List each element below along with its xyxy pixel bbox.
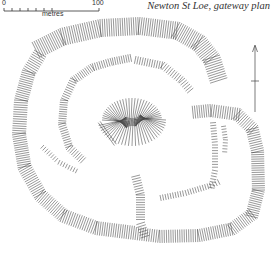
- hachure-stroke: [88, 219, 93, 232]
- hachure-stroke: [70, 148, 75, 154]
- hachure-stroke: [109, 19, 110, 37]
- hachure-stroke: [60, 127, 68, 129]
- hachure-stroke: [194, 40, 208, 51]
- hachure-stroke: [115, 224, 117, 238]
- north-arrow-icon: [251, 45, 259, 112]
- hachure-stroke: [153, 229, 155, 242]
- hachure-stroke: [119, 224, 121, 238]
- hachure-stroke: [158, 20, 160, 38]
- hachure-stroke: [222, 132, 227, 133]
- hachure-stroke: [151, 60, 153, 68]
- hachure-stroke: [210, 123, 216, 124]
- hachure-stroke: [62, 136, 70, 138]
- hachure-stroke: [107, 19, 108, 37]
- hachure-stroke: [13, 139, 27, 141]
- hachure-stroke: [192, 106, 193, 119]
- hachure-stroke: [104, 19, 105, 37]
- hachure-stroke: [101, 61, 103, 69]
- hachure-stroke: [14, 100, 28, 101]
- hachure-stroke: [60, 105, 68, 106]
- hachure-stroke: [87, 22, 91, 40]
- hachure-stroke: [93, 21, 97, 39]
- hachure-stroke: [16, 155, 30, 157]
- hachure-stroke: [210, 78, 227, 84]
- hachure-stroke: [207, 66, 224, 71]
- hachure-stroke: [118, 18, 119, 36]
- hachure-stroke: [175, 192, 176, 198]
- hachure-stroke: [15, 152, 29, 154]
- hachure-stroke: [208, 227, 211, 240]
- hachure-stroke: [71, 149, 77, 155]
- hachure-stroke: [137, 57, 139, 65]
- hachure-stroke: [199, 105, 200, 118]
- hachure-stroke: [149, 59, 151, 67]
- hachure-stroke: [207, 184, 209, 190]
- hachure-stroke: [84, 23, 88, 41]
- hachure-stroke: [84, 218, 89, 231]
- hachure-stroke: [65, 143, 73, 146]
- hachure-stroke: [133, 183, 142, 185]
- hachure-stroke: [200, 186, 202, 192]
- hachure-stroke: [71, 26, 75, 44]
- hachure-stroke: [200, 229, 203, 242]
- hachure-stroke: [67, 211, 72, 224]
- hachure-stroke: [89, 22, 93, 40]
- scale-bar: [4, 8, 99, 11]
- hachure-stroke: [227, 107, 229, 120]
- hachure-stroke: [219, 225, 222, 238]
- hachure-stroke: [98, 123, 114, 146]
- hachure-stroke: [91, 220, 96, 233]
- hachure-stroke: [197, 105, 198, 118]
- hachure-stroke: [108, 223, 110, 237]
- hachure-stroke: [202, 185, 204, 191]
- interior-ditch-east: [160, 179, 220, 201]
- hachure-stroke: [211, 173, 217, 174]
- hachure-stroke: [59, 116, 67, 117]
- hachure-stroke: [69, 212, 74, 225]
- hachure-stroke: [41, 145, 44, 149]
- hachure-stroke: [156, 230, 158, 243]
- hachure-stroke: [206, 104, 207, 117]
- hachure-stroke: [188, 189, 190, 195]
- hachure-stroke: [151, 229, 153, 242]
- hachure-stroke: [156, 61, 158, 69]
- hachure-stroke: [114, 57, 116, 65]
- hachure-stroke: [16, 157, 30, 159]
- hachure-stroke: [43, 147, 46, 151]
- hachure-stroke: [181, 27, 190, 43]
- hachure-stroke: [116, 18, 117, 36]
- hachure-stroke: [68, 165, 70, 170]
- hachure-stroke: [205, 184, 207, 190]
- hachure-stroke: [190, 189, 192, 195]
- hachure-stroke: [195, 41, 209, 52]
- hachure-stroke: [62, 134, 70, 137]
- hachure-stroke: [137, 227, 139, 240]
- hachure-stroke: [75, 169, 77, 173]
- hachure-stroke: [124, 18, 125, 36]
- hachure-stroke: [63, 93, 70, 96]
- hachure-stroke: [222, 106, 224, 119]
- hachure-stroke: [113, 18, 114, 36]
- hachure-stroke: [78, 215, 83, 228]
- hachure-stroke: [69, 26, 73, 44]
- hachure-stroke: [113, 223, 115, 237]
- hachure-stroke: [250, 143, 263, 146]
- eastern-inner-bank: [209, 123, 218, 189]
- hachure-stroke: [222, 224, 225, 237]
- hachure-stroke: [133, 180, 142, 182]
- hachure-stroke: [127, 18, 128, 36]
- hachure-stroke: [13, 126, 27, 127]
- hachure-stroke: [133, 226, 135, 240]
- hachure-stroke: [91, 21, 95, 39]
- hachure-stroke: [14, 107, 28, 108]
- hachure-stroke: [14, 141, 28, 143]
- hachure-stroke: [55, 158, 58, 162]
- hachure-stroke: [192, 188, 194, 194]
- hachure-stroke: [76, 74, 81, 81]
- hachure-stroke: [59, 118, 67, 119]
- hachure-stroke: [210, 181, 216, 182]
- hachure-stroke: [144, 228, 146, 241]
- hachure-stroke: [111, 223, 113, 237]
- hachure-stroke: [171, 22, 180, 38]
- hachure-stroke: [198, 45, 212, 56]
